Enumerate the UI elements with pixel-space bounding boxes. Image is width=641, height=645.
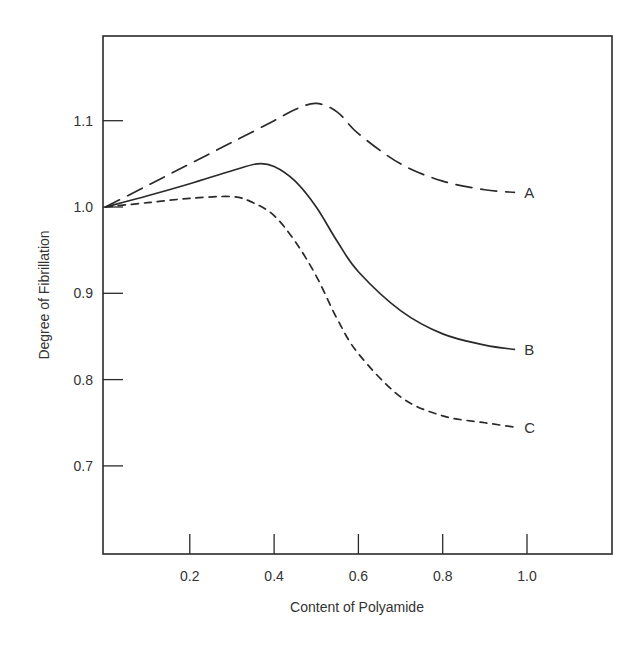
x-axis-title: Content of Polyamide	[290, 599, 424, 615]
y-tick-label: 1.0	[74, 199, 94, 215]
plot-frame	[103, 36, 612, 554]
y-axis-title: Degree of Fibrillation	[36, 230, 52, 359]
x-tick-label: 0.8	[433, 568, 453, 584]
curve-c	[106, 196, 515, 427]
x-tick-label: 0.6	[349, 568, 369, 584]
x-tick-label: 0.4	[264, 568, 284, 584]
y-tick-label: 1.1	[74, 113, 94, 129]
x-tick-label: 0.2	[180, 568, 200, 584]
curve-b	[106, 164, 515, 350]
x-tick-label: 1.0	[517, 568, 537, 584]
fibrillation-chart: 0.20.40.60.81.0 0.70.80.91.01.1 ABC Cont…	[0, 0, 641, 645]
plot-border	[103, 36, 612, 554]
curve-label-c: C	[524, 419, 535, 436]
curve-a	[106, 103, 515, 207]
y-axis-ticks: 0.70.80.91.01.1	[74, 113, 123, 474]
y-tick-label: 0.9	[74, 285, 94, 301]
y-tick-label: 0.8	[74, 372, 94, 388]
y-tick-label: 0.7	[74, 458, 94, 474]
curve-label-b: B	[524, 341, 534, 358]
curves: ABC	[106, 103, 536, 436]
curve-label-a: A	[524, 184, 534, 201]
x-axis-ticks: 0.20.40.60.81.0	[180, 534, 537, 584]
